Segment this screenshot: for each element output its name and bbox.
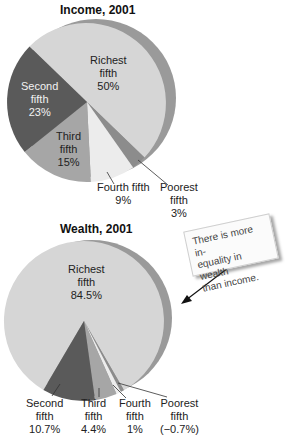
label-line: Richest bbox=[68, 263, 105, 276]
label-line: fifth bbox=[90, 67, 127, 80]
wealth-chart-title: Wealth, 2001 bbox=[60, 222, 132, 236]
label-value: 84.5% bbox=[68, 289, 105, 302]
income-label-third: Third fifth 15% bbox=[56, 130, 81, 169]
label-line: Second bbox=[21, 80, 58, 93]
label-line: Third bbox=[81, 397, 106, 410]
label-line: Fourth fifth bbox=[97, 181, 150, 194]
label-value: 10.7% bbox=[26, 423, 63, 436]
label-line: fifth bbox=[160, 410, 199, 423]
label-value: 3% bbox=[160, 207, 198, 220]
label-line: Fourth bbox=[119, 397, 151, 410]
wealth-label-second: Second fifth 10.7% bbox=[26, 397, 63, 436]
label-value: 15% bbox=[56, 156, 81, 169]
label-line: Poorest bbox=[160, 181, 198, 194]
income-label-fourth: Fourth fifth 9% bbox=[97, 181, 150, 207]
label-line: Third bbox=[56, 130, 81, 143]
label-value: 4.4% bbox=[81, 423, 106, 436]
label-line: fifth bbox=[81, 410, 106, 423]
income-label-second: Second fifth 23% bbox=[21, 80, 58, 119]
label-line: Poorest bbox=[160, 397, 199, 410]
label-value: 1% bbox=[119, 423, 151, 436]
label-line: fifth bbox=[21, 93, 58, 106]
income-label-richest: Richest fifth 50% bbox=[90, 54, 127, 93]
wealth-label-fourth: Fourth fifth 1% bbox=[119, 397, 151, 436]
wealth-poorest-leader bbox=[118, 383, 167, 397]
wealth-label-richest: Richest fifth 84.5% bbox=[68, 263, 105, 302]
label-line: Richest bbox=[90, 54, 127, 67]
label-line: Second bbox=[26, 397, 63, 410]
wealth-label-third: Third fifth 4.4% bbox=[81, 397, 106, 436]
income-label-poorest: Poorest fifth 3% bbox=[160, 181, 198, 220]
label-value: 9% bbox=[97, 194, 150, 207]
label-value: 23% bbox=[21, 106, 58, 119]
wealth-label-poorest: Poorest fifth (−0.7%) bbox=[160, 397, 199, 436]
label-line: fifth bbox=[26, 410, 63, 423]
label-line: fifth bbox=[119, 410, 151, 423]
label-line: fifth bbox=[68, 276, 105, 289]
label-value: 50% bbox=[90, 80, 127, 93]
label-value: (−0.7%) bbox=[160, 423, 199, 436]
label-line: fifth bbox=[160, 194, 198, 207]
label-line: fifth bbox=[56, 143, 81, 156]
income-chart-title: Income, 2001 bbox=[60, 3, 135, 17]
